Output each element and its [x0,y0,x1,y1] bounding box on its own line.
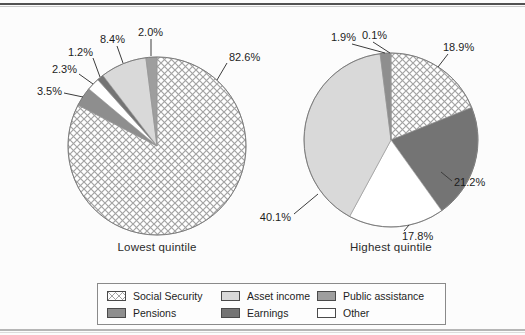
legend-label: Social Security [133,290,202,302]
legend-item-earnings: Earnings [221,307,317,319]
slice-label-public-assistance: 2.0% [138,26,163,38]
legend-box: Social Security Asset income Public assi… [97,283,446,325]
figure-canvas: 82.6%3.5%2.3%1.2%8.4%2.0% 18.9%21.2%17.8… [0,0,525,335]
leader-line-social-security [438,54,448,67]
legend-label: Asset income [247,290,310,302]
legend-item-pensions: Pensions [107,307,221,319]
legend-label: Public assistance [343,290,424,302]
pie-highest-quintile: 18.9%21.2%17.8%40.1%1.9%0.1% [260,29,486,242]
bottom-rule [0,329,525,331]
bottom-rule-shadow [0,332,525,333]
legend-swatch-asset-income-icon [221,291,240,301]
pie-charts-canvas: 82.6%3.5%2.3%1.2%8.4%2.0% 18.9%21.2%17.8… [0,0,525,280]
legend-label: Earnings [247,307,288,319]
slice-label-earnings: 1.2% [68,46,93,58]
slice-label-social-security: 18.9% [443,41,474,53]
slice-label-social-security: 82.6% [229,51,260,63]
right-pie-caption: Highest quintile [350,241,432,253]
legend-swatch-other-icon [317,308,336,318]
legend-swatch-earnings-icon [221,308,240,318]
leader-line-pensions [352,44,385,53]
slice-label-pensions: 3.5% [37,85,62,97]
legend-label: Pensions [133,307,176,319]
legend-item-public-assistance: Public assistance [317,290,446,302]
legend-swatch-social-security-icon [107,291,126,301]
pie-lowest-quintile: 82.6%3.5%2.3%1.2%8.4%2.0% [37,26,260,235]
slice-label-public-assistance: 0.1% [362,29,387,41]
leader-line-pensions [64,93,83,97]
legend-label: Other [343,307,369,319]
leader-line-asset-income [117,46,123,63]
slice-label-asset-income: 8.4% [100,33,125,45]
legend-swatch-public-assistance-icon [317,291,336,301]
leader-line-public-assistance [373,42,390,53]
slice-label-pensions: 1.9% [331,31,356,43]
slice-label-other: 2.3% [52,63,77,75]
leader-line-asset-income [294,194,318,214]
left-pie-caption: Lowest quintile [117,241,196,253]
legend-swatch-pensions-icon [107,308,126,318]
slice-label-earnings: 21.2% [454,176,485,188]
legend-item-social-security: Social Security [107,290,221,302]
slice-label-asset-income: 40.1% [260,211,291,223]
leader-line-other [79,74,93,84]
leader-line-earnings [93,58,100,77]
legend-item-asset-income: Asset income [221,290,317,302]
legend-item-other: Other [317,307,446,319]
leader-line-social-security [217,63,227,80]
